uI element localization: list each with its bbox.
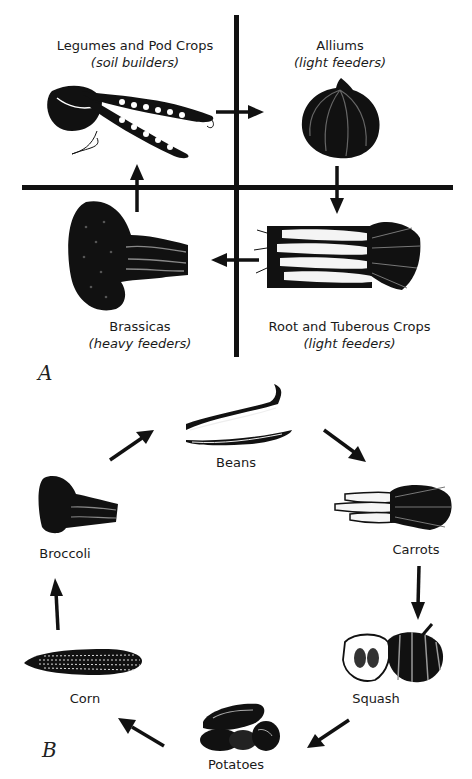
potatoes-icon (198, 702, 282, 752)
arrow-alliums-to-roots (330, 166, 344, 214)
arrow-potatoes-to-corn (118, 718, 166, 748)
arrow-carrots-to-squash (411, 566, 425, 620)
carrots-icon (330, 482, 455, 532)
arrow-beans-to-carrots (322, 428, 366, 462)
arrow-roots-to-brassicas (211, 253, 259, 267)
broccoli-icon (66, 197, 191, 315)
arrow-legumes-to-alliums (216, 105, 264, 119)
arrow-brassicas-to-legumes (130, 164, 144, 212)
quadrant-label-roots: Root and Tuberous Crops (light feeders) (252, 318, 447, 352)
broccoli-icon (36, 472, 120, 536)
onion-icon (298, 76, 384, 160)
crop-label-broccoli: Broccoli (30, 545, 100, 562)
quadrant-role-roots: (light feeders) (252, 335, 447, 352)
quadrant-role-alliums: (light feeders) (275, 54, 405, 71)
crop-label-beans: Beans (196, 454, 276, 471)
arrow-corn-to-broccoli (50, 578, 64, 630)
crop-label-corn: Corn (55, 690, 115, 707)
crop-label-squash: Squash (336, 690, 416, 707)
crop-label-potatoes: Potatoes (196, 756, 276, 773)
panel-b-letter: B (42, 738, 57, 762)
arrow-broccoli-to-beans (108, 430, 154, 462)
quadrant-label-brassicas: Brassicas (heavy feeders) (65, 318, 215, 352)
quadrant-role-brassicas: (heavy feeders) (65, 335, 215, 352)
arrow-squash-to-potatoes (307, 718, 351, 748)
squash-icon (340, 630, 446, 684)
quadrant-role-legumes: (soil builders) (40, 54, 230, 71)
quadrant-label-alliums: Alliums (light feeders) (275, 37, 405, 71)
crop-label-carrots: Carrots (376, 541, 456, 558)
corn-icon (24, 645, 144, 677)
beans-icon (182, 382, 296, 448)
horizontal-divider (22, 185, 453, 190)
panel-a-letter: A (38, 361, 52, 385)
quadrant-label-legumes: Legumes and Pod Crops (soil builders) (40, 37, 230, 71)
pea-pods-icon (42, 76, 222, 161)
carrots-icon (262, 218, 422, 293)
